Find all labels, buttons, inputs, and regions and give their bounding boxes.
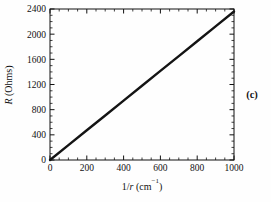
y-tick-label: 2400 bbox=[27, 4, 46, 14]
figure-panel: 02004006008001000 0400800120016002000240… bbox=[0, 0, 271, 202]
x-tick-label: 600 bbox=[153, 163, 168, 173]
series-r-vs-1/r bbox=[50, 12, 234, 160]
x-axis-tick-labels: 02004006008001000 bbox=[48, 163, 244, 173]
x-tick-label: 200 bbox=[80, 163, 95, 173]
x-tick-label: 1000 bbox=[225, 163, 244, 173]
y-tick-label: 1200 bbox=[27, 80, 46, 90]
y-tick-label: 2000 bbox=[27, 30, 46, 40]
y-tick-label: 1600 bbox=[27, 55, 46, 65]
x-axis-title: 1/r (cm−1) bbox=[122, 177, 163, 193]
panel-label: (c) bbox=[246, 89, 258, 101]
y-axis-title: R (Ohms) bbox=[3, 65, 15, 105]
y-axis-tick-labels: 04008001200160020002400 bbox=[27, 4, 46, 165]
y-tick-label: 400 bbox=[32, 130, 47, 140]
data-series-line bbox=[50, 12, 234, 160]
chart-canvas: 02004006008001000 0400800120016002000240… bbox=[0, 0, 271, 202]
x-tick-label: 800 bbox=[190, 163, 205, 173]
x-tick-label: 0 bbox=[48, 163, 53, 173]
y-tick-label: 0 bbox=[41, 155, 46, 165]
x-tick-label: 400 bbox=[116, 163, 131, 173]
y-tick-label: 800 bbox=[32, 105, 47, 115]
